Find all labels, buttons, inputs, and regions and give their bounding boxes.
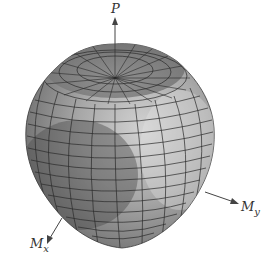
my-axis [205,192,239,204]
mx-axis [47,218,62,244]
p-axis [112,17,118,44]
mx-axis-label: Mx [30,236,49,254]
surface-body [18,38,220,248]
my-axis-label: My [241,199,260,217]
interaction-surface-diagram [0,0,270,267]
p-axis-label: P [111,1,120,16]
